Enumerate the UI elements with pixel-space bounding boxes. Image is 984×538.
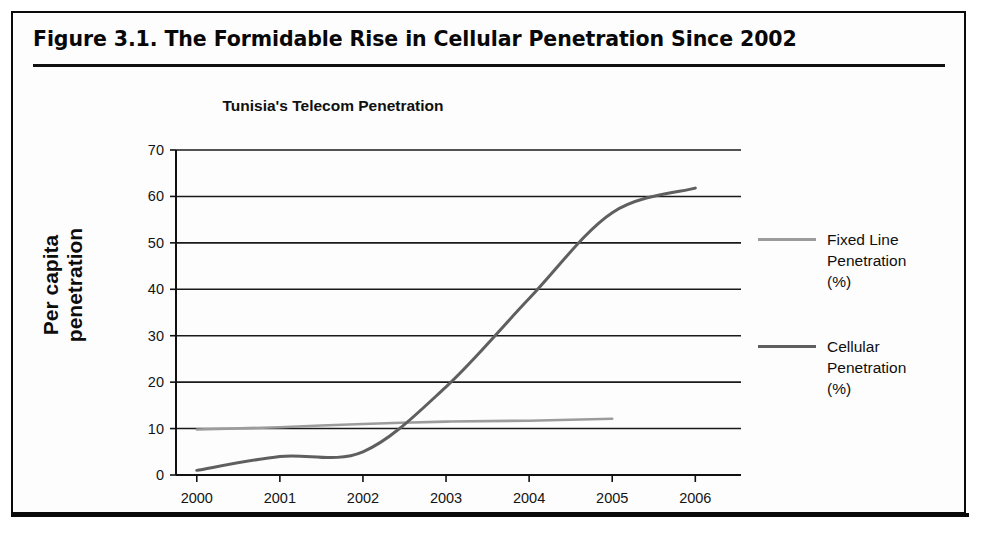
legend-item-label: Cellular Penetration (%) [827,336,906,399]
legend-item[interactable]: Cellular Penetration (%) [758,336,953,399]
chart-legend: Fixed Line Penetration (%)Cellular Penet… [758,229,953,443]
svg-text:30: 30 [148,328,164,344]
svg-text:20: 20 [148,374,164,390]
svg-text:2006: 2006 [679,490,711,506]
svg-text:2005: 2005 [596,490,628,506]
svg-text:2003: 2003 [430,490,462,506]
caption-divider [33,64,945,67]
x-axis-tick-labels: 2000200120022003200420052006 [181,490,712,506]
svg-text:40: 40 [148,281,164,297]
svg-text:2000: 2000 [181,490,213,506]
x-axis-ticks [197,475,696,482]
legend-item-label: Fixed Line Penetration (%) [827,229,906,292]
svg-text:2001: 2001 [264,490,296,506]
svg-text:2002: 2002 [347,490,379,506]
svg-text:10: 10 [148,421,164,437]
gridlines [176,150,741,429]
svg-text:2004: 2004 [513,490,545,506]
svg-text:50: 50 [148,235,164,251]
svg-text:0: 0 [156,467,164,483]
legend-item[interactable]: Fixed Line Penetration (%) [758,229,953,292]
legend-line-swatch-icon [758,345,816,348]
svg-text:60: 60 [148,188,164,204]
figure-frame: Figure 3.1. The Formidable Rise in Cellu… [11,11,966,514]
chart-area: Tunisia's Telecom Penetration Per capita… [13,71,964,512]
svg-text:70: 70 [148,142,164,158]
figure-caption: Figure 3.1. The Formidable Rise in Cellu… [33,27,797,51]
y-axis-tick-labels: 010203040506070 [148,142,164,483]
legend-line-swatch-icon [758,238,816,241]
